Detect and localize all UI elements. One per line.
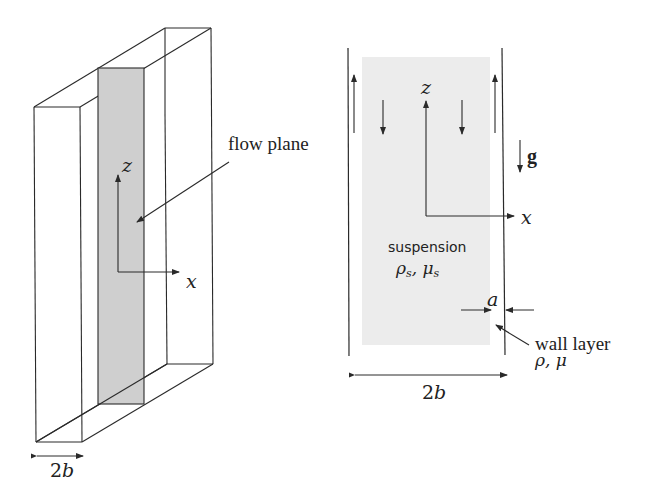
x-axis-label-right: x	[521, 206, 532, 228]
right-wall	[502, 48, 505, 355]
wall-layer-properties: ρ, μ	[534, 350, 567, 370]
wall-layer-leader-arrow	[496, 325, 529, 345]
x-axis-label-left: x	[186, 270, 197, 292]
front-left-edge	[34, 107, 36, 442]
flow-plane-leader-arrow	[137, 162, 229, 222]
z-axis-label-right: z	[420, 76, 432, 98]
left-wall	[348, 48, 349, 356]
back-left-lower-edge	[165, 114, 167, 364]
flow-plane	[98, 68, 144, 404]
width-label-right: 2b	[422, 381, 446, 403]
front-right-edge	[80, 107, 82, 442]
gravity-label: g	[527, 145, 537, 168]
back-right-edge	[211, 28, 213, 364]
suspension-properties: ρs, μs	[395, 258, 440, 280]
front-face	[34, 107, 82, 442]
diagram-canvas: z x flow plane 2b z x g suspension ρs, μ…	[0, 0, 655, 497]
z-axis-label-left: z	[121, 154, 133, 176]
suspension-label: suspension	[388, 239, 466, 255]
width-label-left: 2b	[50, 459, 74, 481]
gap-label: a	[487, 288, 498, 310]
flow-plane-label: flow plane	[228, 133, 309, 154]
